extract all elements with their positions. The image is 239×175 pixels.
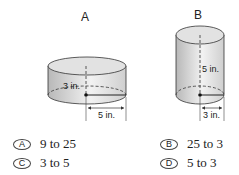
choice-b-bubble[interactable]: B	[160, 139, 178, 150]
choice-a-text: 9 to 25	[40, 136, 76, 152]
choice-d[interactable]: D 5 to 3	[160, 155, 217, 171]
choice-c[interactable]: C 3 to 5	[13, 155, 70, 171]
choice-b[interactable]: B 25 to 3	[160, 136, 223, 152]
figure-b-label: B	[194, 8, 202, 22]
choice-a[interactable]: A 9 to 25	[13, 136, 76, 152]
choice-a-bubble[interactable]: A	[13, 139, 31, 150]
choice-d-bubble[interactable]: D	[160, 158, 178, 169]
figure-a-radius-label: 5 in.	[98, 110, 115, 120]
figure-a-height-label: 3 in.	[63, 81, 80, 91]
choice-b-text: 25 to 3	[187, 136, 223, 152]
figure-b-height-label: 5 in.	[202, 64, 219, 74]
choice-c-bubble[interactable]: C	[13, 158, 31, 169]
figure-b-radius-label: 3 in.	[203, 110, 220, 120]
choice-c-text: 3 to 5	[40, 155, 70, 171]
figure-a-label: A	[81, 10, 89, 24]
choice-d-text: 5 to 3	[187, 155, 217, 171]
